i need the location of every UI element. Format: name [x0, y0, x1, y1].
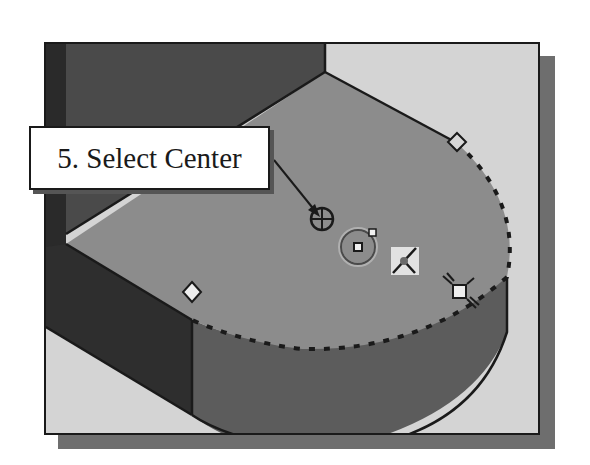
cad-viewport[interactable] [44, 42, 540, 435]
part-model [46, 44, 540, 435]
step-callout: 5. Select Center [29, 126, 270, 190]
callout-label: 5. Select Center [57, 142, 241, 175]
